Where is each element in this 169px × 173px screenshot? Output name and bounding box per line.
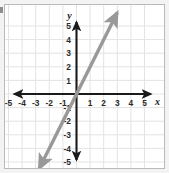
coordinate-plane-svg: -5-4-3-2-11234554321-1-2-3-4-5 xy: [5, 5, 164, 168]
y-tick-label: 4: [66, 35, 71, 45]
y-tick-label: -4: [64, 144, 72, 154]
data-line-group: [39, 12, 117, 168]
data-line: [39, 12, 117, 168]
y-tick-label: 3: [66, 48, 71, 58]
x-tick-label: 1: [88, 98, 93, 108]
graph-figure: -5-4-3-2-11234554321-1-2-3-4-5 xy: [0, 0, 169, 173]
x-tick-label: -3: [32, 98, 40, 108]
x-axis-title: x: [154, 96, 160, 107]
gridlines-group: [5, 5, 164, 168]
y-tick-label: 1: [66, 76, 71, 86]
y-axis-title: y: [66, 10, 72, 21]
y-tick-label: 5: [66, 21, 71, 31]
x-tick-label: 2: [101, 98, 106, 108]
y-tick-label: -3: [64, 130, 72, 140]
x-tick-label: -4: [18, 98, 26, 108]
edge-artifact: [0, 7, 3, 13]
x-tick-label: -2: [46, 98, 54, 108]
x-tick-label: -5: [5, 98, 13, 108]
y-tick-label: 2: [66, 62, 71, 72]
x-tick-label: 4: [129, 98, 134, 108]
coordinate-plane-panel: -5-4-3-2-11234554321-1-2-3-4-5 xy: [4, 4, 165, 169]
y-tick-label: -5: [64, 157, 72, 167]
axis-titles-group: xy: [66, 10, 160, 107]
x-tick-label: 3: [115, 98, 120, 108]
x-tick-label: 5: [142, 98, 147, 108]
